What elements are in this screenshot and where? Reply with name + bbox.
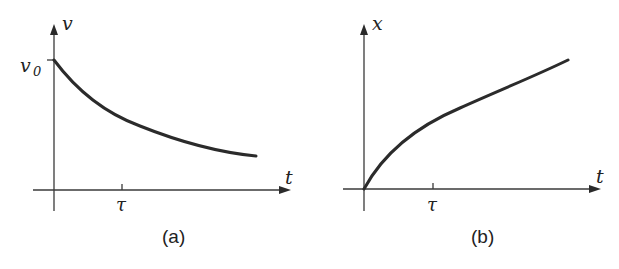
figure: v v 0 t τ (a) x t τ (b) [0,0,619,269]
tau-label-a: τ [116,194,127,215]
y-label-x: x [372,12,383,34]
position-curve [364,60,568,189]
panel-a: v v 0 t τ (a) [20,12,293,247]
y-axis-arrow-icon [50,24,58,35]
v0-label: v [20,54,31,76]
caption-a: (a) [162,226,185,247]
tau-label-b: τ [427,194,438,215]
velocity-curve [54,60,256,156]
caption-b: (b) [471,226,494,247]
x-label-t-b: t [596,165,604,187]
panel-b: x t τ (b) [343,12,604,247]
y-label-v: v [62,12,73,34]
y-axis-arrow-icon [360,24,368,35]
x-label-t-a: t [285,166,293,188]
v0-subscript: 0 [33,64,41,79]
